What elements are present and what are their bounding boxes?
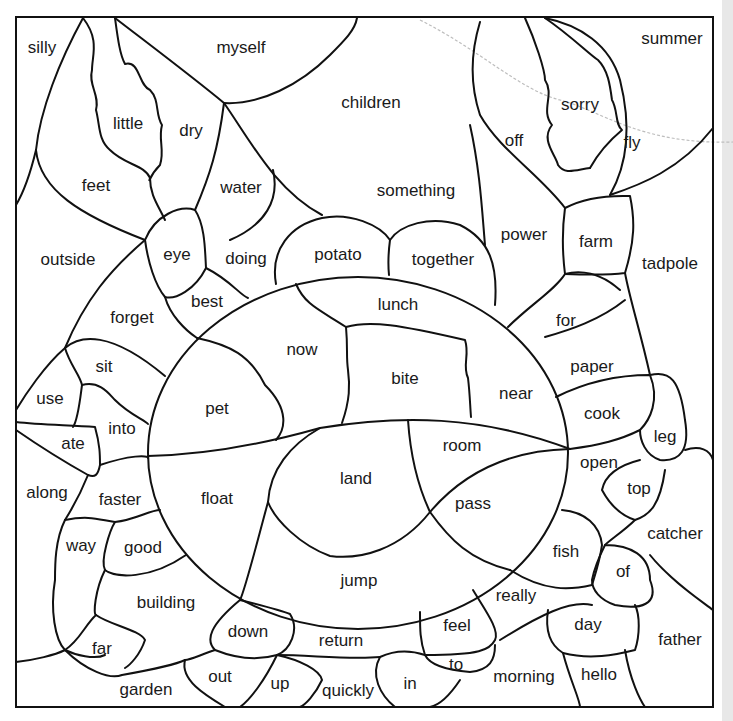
region-word-outside[interactable]: outside: [41, 251, 96, 268]
region-word-use[interactable]: use: [36, 390, 63, 407]
region-word-water[interactable]: water: [220, 179, 262, 196]
region-word-dry[interactable]: dry: [179, 122, 203, 139]
region-word-morning[interactable]: morning: [493, 668, 554, 685]
region-word-pet[interactable]: pet: [205, 400, 229, 417]
region-word-day[interactable]: day: [574, 616, 601, 633]
region-word-myself[interactable]: myself: [216, 39, 265, 56]
region-word-potato[interactable]: potato: [314, 246, 361, 263]
region-word-up[interactable]: up: [271, 675, 290, 692]
region-word-feel[interactable]: feel: [443, 617, 470, 634]
region-word-building[interactable]: building: [137, 594, 196, 611]
region-word-faster[interactable]: faster: [99, 491, 142, 508]
region-word-near[interactable]: near: [499, 385, 533, 402]
region-word-summer[interactable]: summer: [641, 30, 702, 47]
region-word-catcher[interactable]: catcher: [647, 525, 703, 542]
region-word-together[interactable]: together: [412, 251, 474, 268]
region-word-bite[interactable]: bite: [391, 370, 418, 387]
region-word-now[interactable]: now: [286, 341, 317, 358]
region-word-eye[interactable]: eye: [163, 246, 190, 263]
region-word-for[interactable]: for: [556, 312, 576, 329]
region-word-fish[interactable]: fish: [553, 543, 579, 560]
region-word-ate[interactable]: ate: [61, 435, 85, 452]
region-word-into[interactable]: into: [108, 420, 135, 437]
region-word-off[interactable]: off: [505, 132, 524, 149]
region-word-return[interactable]: return: [319, 632, 363, 649]
region-word-leg[interactable]: leg: [654, 428, 677, 445]
region-word-power[interactable]: power: [501, 226, 547, 243]
region-word-little[interactable]: little: [113, 115, 143, 132]
region-word-doing[interactable]: doing: [225, 250, 267, 267]
region-word-out[interactable]: out: [208, 668, 232, 685]
region-word-hello[interactable]: hello: [581, 666, 617, 683]
region-word-far[interactable]: far: [92, 640, 112, 657]
region-word-pass[interactable]: pass: [455, 495, 491, 512]
region-word-room[interactable]: room: [443, 437, 482, 454]
coloring-worksheet: sillymyselfsummerlittledrychildrensorryo…: [0, 0, 733, 721]
region-word-father[interactable]: father: [658, 631, 701, 648]
region-word-way[interactable]: way: [66, 537, 96, 554]
region-word-silly[interactable]: silly: [28, 39, 56, 56]
scan-edge: [722, 0, 733, 721]
region-word-something[interactable]: something: [377, 182, 455, 199]
region-word-feet[interactable]: feet: [82, 177, 110, 194]
region-word-really[interactable]: really: [496, 587, 537, 604]
region-word-good[interactable]: good: [124, 539, 162, 556]
region-word-fly[interactable]: fly: [624, 134, 641, 151]
region-word-tadpole[interactable]: tadpole: [642, 255, 698, 272]
region-word-lunch[interactable]: lunch: [378, 296, 419, 313]
region-word-sit[interactable]: sit: [96, 358, 113, 375]
region-word-open[interactable]: open: [580, 454, 618, 471]
region-word-in[interactable]: in: [403, 675, 416, 692]
region-word-land[interactable]: land: [340, 470, 372, 487]
region-word-to[interactable]: to: [449, 656, 463, 673]
region-word-along[interactable]: along: [26, 484, 68, 501]
region-word-sorry[interactable]: sorry: [561, 96, 599, 113]
region-word-of[interactable]: of: [616, 563, 630, 580]
region-word-farm[interactable]: farm: [579, 233, 613, 250]
region-word-top[interactable]: top: [627, 480, 651, 497]
region-word-best[interactable]: best: [191, 293, 223, 310]
region-word-children[interactable]: children: [341, 94, 401, 111]
region-word-down[interactable]: down: [228, 623, 269, 640]
region-word-garden[interactable]: garden: [120, 681, 173, 698]
region-word-cook[interactable]: cook: [584, 405, 620, 422]
region-word-paper[interactable]: paper: [570, 358, 613, 375]
region-word-quickly[interactable]: quickly: [322, 682, 374, 699]
region-word-forget[interactable]: forget: [110, 309, 153, 326]
region-word-jump[interactable]: jump: [341, 572, 378, 589]
region-word-float[interactable]: float: [201, 490, 233, 507]
